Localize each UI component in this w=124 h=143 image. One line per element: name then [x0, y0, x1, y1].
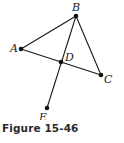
- segment-bc: [76, 16, 101, 75]
- label-a: A: [9, 42, 18, 55]
- label-e: E: [38, 111, 47, 120]
- point-d: [59, 60, 64, 65]
- segment-ab: [21, 16, 76, 49]
- geometry-diagram: A B C D E: [0, 0, 124, 120]
- label-c: C: [104, 73, 113, 86]
- label-d: D: [64, 51, 74, 64]
- label-b: B: [71, 1, 80, 14]
- point-b: [74, 14, 79, 19]
- point-c: [99, 73, 104, 78]
- figure-caption: Figure 15-46: [2, 122, 79, 134]
- point-e: [45, 106, 50, 111]
- point-a: [19, 47, 24, 52]
